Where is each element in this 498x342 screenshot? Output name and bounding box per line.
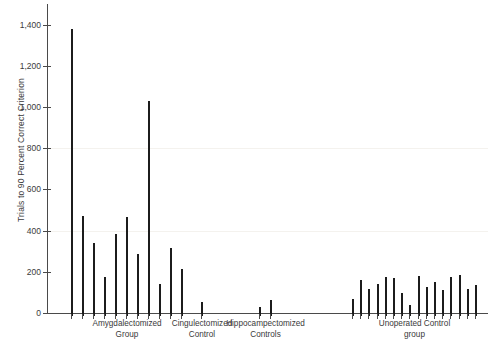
bar <box>426 287 428 316</box>
y-axis-tick-label: 200 <box>27 268 41 277</box>
group-label-amygdalectomized: AmygdalectomizedGroup <box>92 318 161 340</box>
x-axis-tick <box>368 314 369 319</box>
y-axis-tick-label: 400 <box>27 226 41 235</box>
bar <box>377 284 379 316</box>
bar <box>159 284 161 316</box>
bar <box>401 293 403 316</box>
bar <box>360 280 362 316</box>
x-axis-tick <box>360 314 361 319</box>
y-axis-tick-mark <box>43 25 51 26</box>
x-axis-tick <box>467 314 468 319</box>
group-label-line-2: group <box>379 329 450 340</box>
chart-figure: Trials to 90 Percent Correct Criterion 0… <box>0 0 498 342</box>
plot-area: 02004006008001,0001,2001,400 <box>47 4 492 316</box>
y-axis-line <box>47 4 48 313</box>
bar <box>137 254 139 316</box>
bar <box>170 248 172 316</box>
group-label-unoperated: Unoperated Controlgroup <box>379 318 450 340</box>
x-axis-tick <box>377 314 378 319</box>
x-axis-tick <box>459 314 460 319</box>
bar <box>368 289 370 316</box>
bar <box>82 216 84 316</box>
x-axis-tick <box>352 314 353 319</box>
group-label-line-2: Control <box>172 329 233 340</box>
guide-line <box>48 148 488 149</box>
y-axis-tick-mark <box>43 313 51 314</box>
bar <box>385 277 387 316</box>
y-axis-tick-label: 0 <box>36 309 41 318</box>
bar <box>450 277 452 316</box>
x-axis-tick <box>71 314 72 319</box>
bar <box>104 277 106 316</box>
x-axis-tick <box>82 314 83 319</box>
group-label-cingulectomized: CingulectomizedControl <box>172 318 233 340</box>
bar <box>93 243 95 316</box>
bar <box>434 282 436 316</box>
bar <box>475 285 477 316</box>
bar <box>393 278 395 316</box>
y-axis-tick-label: 1,400 <box>20 20 41 29</box>
group-label-line-1: Unoperated Control <box>379 319 450 328</box>
x-axis-line <box>47 313 488 314</box>
x-axis-tick <box>475 314 476 319</box>
group-label-hippocampectomized: HippocampectomizedControls <box>226 318 305 340</box>
bar <box>115 234 117 316</box>
y-axis-tick-mark <box>43 272 51 273</box>
bar <box>459 275 461 316</box>
group-label-line-2: Group <box>92 329 161 340</box>
x-axis-tick <box>450 314 451 319</box>
y-axis-tick-mark <box>43 189 51 190</box>
y-axis-tick-label: 1,200 <box>20 62 41 71</box>
bar <box>467 289 469 316</box>
guide-line <box>48 231 488 232</box>
y-axis-tick-mark <box>43 231 51 232</box>
bar <box>181 269 183 316</box>
group-label-line-1: Cingulectomized <box>172 319 233 328</box>
bar <box>418 276 420 316</box>
y-axis-tick-label: 600 <box>27 185 41 194</box>
y-axis-tick-mark <box>43 107 51 108</box>
y-axis-tick-label: 1,000 <box>20 103 41 112</box>
bar <box>126 217 128 316</box>
bar <box>148 101 150 316</box>
y-axis-tick-mark <box>43 66 51 67</box>
y-axis-tick-mark <box>43 148 51 149</box>
group-label-line-1: Amygdalectomized <box>92 319 161 328</box>
group-label-line-2: Controls <box>226 329 305 340</box>
bar <box>442 290 444 316</box>
bar <box>71 29 73 316</box>
group-label-line-1: Hippocampectomized <box>226 319 305 328</box>
y-axis-tick-label: 800 <box>27 144 41 153</box>
